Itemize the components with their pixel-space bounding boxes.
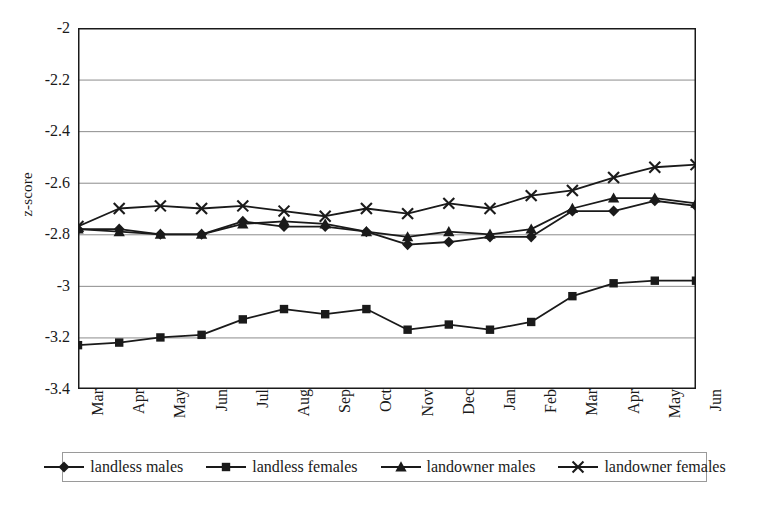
data-point-square (78, 341, 82, 349)
x-tick-label: Nov (418, 389, 438, 455)
legend-label: landowner males (427, 459, 536, 475)
data-point-square (239, 315, 247, 323)
x-tick-label: Apr (624, 389, 644, 455)
x-tick-label: Mar (582, 389, 602, 455)
y-tick-label: -2.8 (10, 226, 70, 242)
x-tick-label: Oct (376, 389, 396, 455)
x-tick-label: Sep (335, 389, 355, 455)
legend-label: landowner females (604, 459, 725, 475)
data-point-diamond (59, 461, 70, 472)
plot-svg (78, 28, 696, 389)
x-tick-label: May (665, 389, 685, 455)
data-point-square (609, 279, 617, 287)
x-tick-label: Aug (294, 389, 314, 455)
y-tick-label: -3 (10, 278, 70, 294)
y-tick-label: -2 (10, 20, 70, 36)
x-tick-label: Jan (500, 389, 520, 455)
legend-item[interactable]: landless females (205, 459, 357, 475)
x-tick-label: Jun (706, 389, 726, 455)
legend-marker-square-icon (205, 459, 247, 475)
data-point-square (197, 331, 205, 339)
y-tick-label: -2.4 (10, 123, 70, 139)
legend-label: landless females (252, 459, 357, 475)
data-point-square (362, 305, 370, 313)
y-tick-label: -3.4 (10, 381, 70, 397)
x-tick-label: Jun (212, 389, 232, 455)
y-axis-tick-labels: -2-2.2-2.4-2.6-2.8-3-3.2-3.4 (6, 0, 70, 509)
y-tick-label: -3.2 (10, 329, 70, 345)
data-point-square (527, 318, 535, 326)
data-point-square (156, 333, 164, 341)
legend-item[interactable]: landless males (43, 459, 183, 475)
legend-marker-diamond-icon (43, 459, 85, 475)
data-point-square (321, 310, 329, 318)
legend-item[interactable]: landowner males (380, 459, 536, 475)
plot-area (78, 28, 696, 389)
data-point-square (568, 292, 576, 300)
x-tick-label: Mar (88, 389, 108, 455)
data-point-square (692, 277, 696, 285)
x-tick-label: Jul (253, 389, 273, 455)
chart-legend: landless maleslandless femaleslandowner … (62, 452, 707, 482)
data-point-square (486, 325, 494, 333)
x-tick-label: Apr (129, 389, 149, 455)
y-tick-label: -2.6 (10, 175, 70, 191)
legend-label: landless males (90, 459, 183, 475)
data-point-square (403, 325, 411, 333)
x-tick-label: May (170, 389, 190, 455)
legend-marker-triangle-icon (380, 459, 422, 475)
legend-marker-cross-icon (557, 459, 599, 475)
data-point-square (651, 277, 659, 285)
y-tick-label: -2.2 (10, 72, 70, 88)
legend-item[interactable]: landowner females (557, 459, 725, 475)
chart-figure: z-score -2-2.2-2.4-2.6-2.8-3-3.2-3.4 Mar… (0, 0, 764, 509)
data-point-square (115, 338, 123, 346)
x-axis-tick-labels: MarAprMayJunJulAugSepOctNovDecJanFebMarA… (78, 389, 696, 455)
x-tick-label: Feb (541, 389, 561, 455)
data-point-square (280, 305, 288, 313)
plot-background (78, 28, 696, 389)
x-tick-label: Dec (459, 389, 479, 455)
data-point-square (445, 320, 453, 328)
data-point-square (222, 463, 230, 471)
